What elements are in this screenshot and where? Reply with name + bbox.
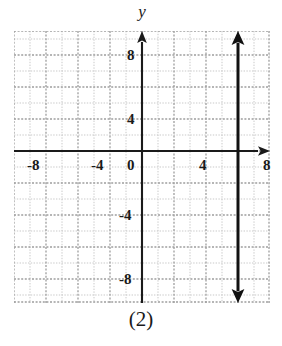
y-tick-label-neg4: -4 — [119, 208, 132, 223]
x-tick-label-zero: 0 — [127, 158, 135, 173]
grid-and-axes — [14, 31, 270, 303]
y-axis-label: y — [0, 2, 282, 22]
x-tick-label-neg4: -4 — [91, 158, 104, 173]
x-tick-label-4: 4 — [199, 158, 207, 173]
axis-lines — [14, 31, 270, 303]
figure-caption: (2) — [0, 306, 282, 332]
y-axis-label-text: y — [138, 2, 146, 21]
coordinate-plane: -8 -4 0 4 8 8 4 -4 -8 — [14, 31, 270, 303]
x-tick-label-neg8: -8 — [27, 158, 40, 173]
y-tick-label-4: 4 — [127, 112, 135, 127]
y-tick-label-neg8: -8 — [119, 272, 132, 287]
y-tick-label-8: 8 — [127, 48, 135, 63]
graph-figure: y — [0, 0, 282, 346]
y-axis-arrowhead — [137, 31, 147, 43]
x-tick-label-8: 8 — [263, 158, 271, 173]
